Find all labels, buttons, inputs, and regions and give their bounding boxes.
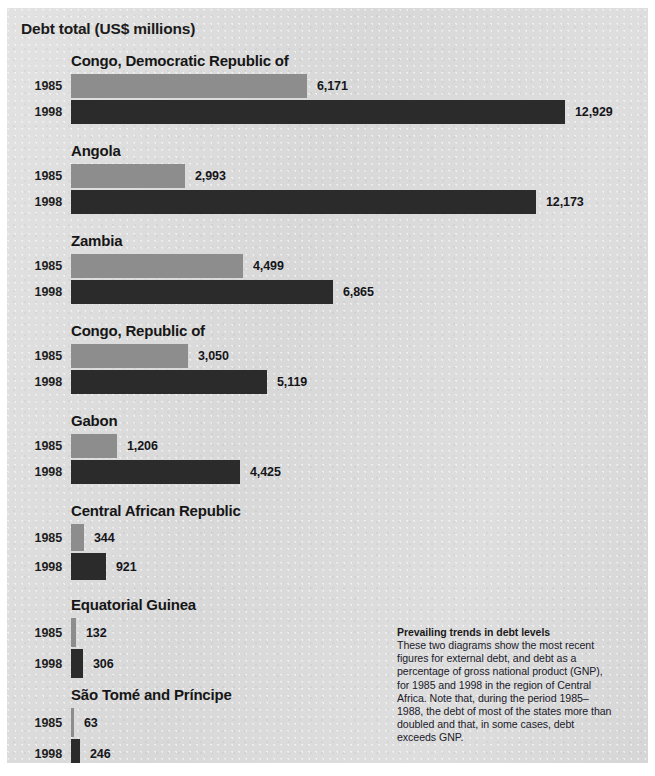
bar-value-label: 2,993 (195, 169, 226, 183)
bar-row: 1985344 (7, 524, 648, 553)
bar-row: 19984,425 (7, 460, 648, 486)
bar-value-label: 3,050 (198, 349, 229, 363)
bar-value-label: 306 (93, 657, 114, 671)
bar-row-year-label: 1998 (7, 195, 62, 209)
bar-row-year-label: 1998 (7, 560, 62, 574)
bar-1985 (71, 254, 243, 278)
bar-row: 19853,050 (7, 344, 648, 370)
caption-title: Prevailing trends in debt levels (397, 626, 612, 639)
bar-1998 (71, 100, 565, 124)
bar-row: 19985,119 (7, 370, 648, 396)
bar-row-year-label: 1985 (7, 531, 62, 545)
caption-body: These two diagrams show the most recent … (397, 639, 612, 745)
bar-row-year-label: 1998 (7, 105, 62, 119)
bar-row-year-label: 1998 (7, 465, 62, 479)
bar-group-title: Congo, Republic of (71, 322, 205, 339)
chart-title: Debt total (US$ millions) (21, 20, 195, 38)
bar-group-title: Zambia (71, 232, 122, 249)
bar-row-year-label: 1998 (7, 747, 62, 761)
bar-1985 (71, 708, 74, 737)
bar-value-label: 1,206 (127, 439, 158, 453)
bar-1998 (71, 553, 106, 580)
bar-1985 (71, 434, 117, 458)
bar-1998 (71, 370, 267, 394)
bar-group-title: Congo, Democratic Republic of (71, 52, 289, 69)
caption-block: Prevailing trends in debt levels These t… (397, 626, 612, 745)
bar-value-label: 12,173 (546, 195, 584, 209)
bar-group-title: Gabon (71, 412, 118, 429)
bar-1998 (71, 460, 240, 484)
chart-figure: Debt total (US$ millions) Congo, Democra… (7, 8, 648, 763)
bar-1985 (71, 164, 185, 188)
bar-row: 1998921 (7, 553, 648, 582)
bar-row-year-label: 1985 (7, 259, 62, 273)
bar-value-label: 5,119 (277, 375, 307, 389)
bar-row-year-label: 1985 (7, 626, 62, 640)
bar-group-title: Equatorial Guinea (71, 596, 196, 613)
bar-1985 (71, 344, 188, 368)
bar-1985 (71, 74, 307, 98)
bar-row-year-label: 1998 (7, 285, 62, 299)
bar-value-label: 246 (90, 747, 111, 761)
bar-value-label: 6,171 (317, 79, 348, 93)
bar-value-label: 4,425 (250, 465, 281, 479)
bar-group-title: Angola (71, 142, 121, 159)
bar-row: 199812,173 (7, 190, 648, 216)
bar-row-year-label: 1998 (7, 375, 62, 389)
bar-row-year-label: 1985 (7, 79, 62, 93)
bar-row: 199812,929 (7, 100, 648, 126)
bar-row-year-label: 1998 (7, 657, 62, 671)
bar-1998 (71, 280, 333, 304)
bar-row-year-label: 1985 (7, 169, 62, 183)
bar-1985 (71, 618, 76, 647)
bar-value-label: 6,865 (343, 285, 374, 299)
bar-value-label: 4,499 (253, 259, 284, 273)
bar-row-year-label: 1985 (7, 716, 62, 730)
bar-value-label: 344 (94, 531, 115, 545)
bar-value-label: 132 (86, 626, 107, 640)
bar-1985 (71, 524, 84, 551)
bar-group-title: Central African Republic (71, 502, 241, 519)
bar-1998 (71, 739, 80, 763)
bar-value-label: 63 (84, 716, 98, 730)
bar-group-title: São Tomé and Príncipe (71, 686, 232, 703)
bar-row: 19852,993 (7, 164, 648, 190)
bar-row: 19986,865 (7, 280, 648, 306)
bar-row: 19851,206 (7, 434, 648, 460)
bar-1998 (71, 190, 536, 214)
bar-row: 19856,171 (7, 74, 648, 100)
bar-1998 (71, 649, 83, 678)
bar-row-year-label: 1985 (7, 439, 62, 453)
bar-value-label: 921 (116, 560, 137, 574)
bar-value-label: 12,929 (575, 105, 613, 119)
bar-row: 19854,499 (7, 254, 648, 280)
bar-row-year-label: 1985 (7, 349, 62, 363)
